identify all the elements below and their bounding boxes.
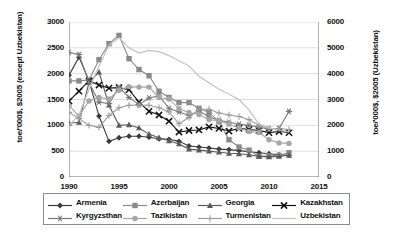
y-axis-left-tick-label: 1500 [36,95,64,104]
y-axis-right-tick-label: 2000 [327,120,357,129]
x-axis-tick-label: 1995 [102,182,136,191]
legend-item-label: Georgia [226,198,255,207]
legend-marker [47,210,73,221]
legend-item-label: Turmenistan [226,211,271,220]
data-point-marker [146,131,152,137]
data-point-marker [136,67,141,72]
x-axis-tick-label: 2000 [152,182,186,191]
data-point-marker [116,88,121,93]
data-point-marker [196,112,201,117]
data-point-marker [57,216,63,221]
data-point-marker [236,125,241,130]
data-point-marker [69,78,72,83]
legend-item-uzbekistan[interactable]: Uzbekistan [271,209,346,222]
legend-item-kazakhstan[interactable]: Kazakhstan [271,196,346,209]
data-point-marker [116,135,122,141]
data-point-marker [266,137,271,142]
legend-row: KyrgyzsthanTazikistanTurmenistanUzbekist… [47,209,346,222]
data-point-marker [176,106,181,111]
data-point-marker [132,216,137,221]
data-point-marker [226,137,231,142]
data-point-marker [256,130,261,135]
data-point-marker [166,118,172,124]
legend-item-label: Azerbaijan [151,198,189,207]
y-axis-right-tick-label: 0 [327,172,357,181]
y-axis-right-tick-label: 4000 [327,69,357,78]
data-point-marker [96,95,101,100]
data-point-marker [286,141,291,146]
legend-item-turmenistan[interactable]: Turmenistan [197,209,272,222]
legend-row: ArmeniaAzerbaijanGeorgiaKazakhstan [47,196,346,209]
legend-marker [122,197,148,208]
legend-item-azerbaijan[interactable]: Azerbaijan [122,196,197,209]
legend-swatch-circle-icon [122,213,148,224]
legend-item-label: Kyrgyzsthan [76,211,122,220]
x-axis-tick-label: 1990 [52,182,86,191]
series-armenia [69,54,292,158]
legend-marker [271,210,297,221]
series-line [69,87,289,144]
y-axis-right-tick-label: 6000 [327,17,357,26]
data-point-marker [146,84,151,89]
data-point-marker [86,98,91,103]
data-point-marker [286,109,292,114]
data-point-marker [96,82,102,88]
y-axis-left-tick-label: 2500 [36,43,64,52]
legend-item-georgia[interactable]: Georgia [197,196,272,209]
data-point-marker [176,100,181,105]
series-uzbekistan [69,38,289,132]
legend-marker [47,197,73,208]
data-point-marker [236,113,242,119]
y-axis-left-tick-label: 0 [36,172,64,181]
data-point-marker [76,78,81,83]
data-point-marker [136,84,141,89]
data-point-marker [216,110,222,116]
data-point-marker [156,105,162,111]
data-point-marker [246,116,252,122]
data-point-marker [106,138,112,144]
y-axis-right-title: toe/'000$, $2005 (Uzbekistan) [371,23,380,143]
data-point-marker [136,133,142,139]
data-point-marker [76,88,82,94]
data-point-marker [186,110,191,115]
plot-svg [69,22,319,177]
data-point-marker [226,112,232,118]
series-tazikistan [69,84,292,146]
series-line [69,38,289,132]
legend-marker [197,197,223,208]
legend-item-tazikistan[interactable]: Tazikistan [122,209,197,222]
data-point-marker [96,113,102,119]
legend-item-label: Kazakhstan [300,198,342,207]
legend-marker [122,210,148,221]
data-point-marker [156,89,161,94]
series-line [69,52,289,128]
data-point-marker [206,117,211,122]
data-point-marker [216,118,221,123]
data-point-marker [156,95,161,100]
legend-item-label: Tazikistan [151,211,187,220]
data-point-marker [236,144,241,149]
energy-intensity-line-chart: toe/'000$, $2005 (except Uzbekistan) toe… [0,0,394,232]
plot-area [69,22,319,177]
data-point-marker [132,203,137,208]
data-point-marker [226,122,231,127]
y-axis-right-tick-label: 5000 [327,43,357,52]
legend-item-kyrgyzsthan[interactable]: Kyrgyzsthan [47,209,122,222]
legend-swatch-plus-icon [197,213,223,224]
legend-item-label: Uzbekistan [300,211,340,220]
legend-swatch-none-icon [271,213,297,224]
y-axis-right-tick-label: 3000 [327,95,357,104]
x-axis-tick-label: 2010 [252,182,286,191]
legend-item-armenia[interactable]: Armenia [47,196,122,209]
data-point-marker [126,102,132,108]
y-axis-left-tick-label: 1000 [36,120,64,129]
series-turmenistan [69,102,292,133]
data-point-marker [126,56,131,61]
legend-marker [197,210,223,221]
x-axis-tick-label: 2005 [202,182,236,191]
data-point-marker [186,100,191,105]
chart-legend: ArmeniaAzerbaijanGeorgiaKazakhstan Kyrgy… [43,193,350,225]
data-point-marker [57,203,63,209]
data-point-marker [246,129,251,134]
data-point-marker [166,96,171,101]
